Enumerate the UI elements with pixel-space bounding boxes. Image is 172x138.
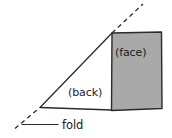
face-panel bbox=[112, 32, 163, 111]
diagram-canvas: (face) (back) fold bbox=[0, 0, 172, 138]
fold-diagram: (face) (back) fold bbox=[0, 0, 172, 138]
back-label: (back) bbox=[68, 86, 102, 99]
fold-label: fold bbox=[62, 118, 83, 132]
face-label: (face) bbox=[115, 46, 146, 59]
